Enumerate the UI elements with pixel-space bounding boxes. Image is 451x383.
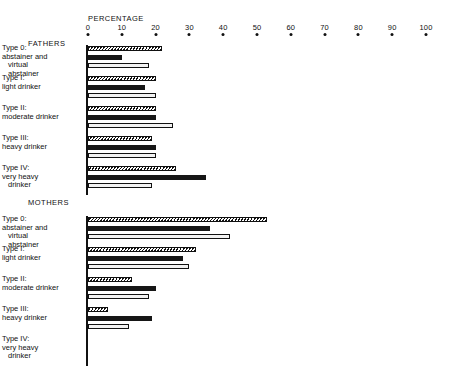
axis-tick-label: 70 [320,23,329,32]
axis-tick-dot [391,33,394,36]
category-label: Type I:light drinker [2,74,86,91]
category-label-line: heavy drinker [2,143,86,152]
bar-mothers-cat2-series-2 [88,286,156,291]
bar-fathers-cat2-series-1 [88,106,156,111]
bar-mothers-cat3-series-2 [88,316,152,321]
axis-title: PERCENTAGE [88,14,144,23]
axis-tick-dot [120,33,123,36]
axis-tick-label: 30 [185,23,194,32]
category-label-line: heavy drinker [2,314,86,323]
category-label-line: drinker [2,181,86,190]
bar-mothers-cat0-series-2 [88,226,210,231]
axis-tick-label: 40 [219,23,228,32]
axis-tick-label: 80 [354,23,363,32]
bar-mothers-cat0-series-3 [88,234,230,239]
category-label-line: moderate drinker [2,113,86,122]
bar-fathers-cat3-series-1 [88,136,152,141]
category-label: Type II:moderate drinker [2,104,86,121]
category-label: Type IV:very heavydrinker [2,164,86,190]
category-label-line: drinker [2,352,86,361]
bar-fathers-cat0-series-1 [88,46,162,51]
bar-fathers-cat3-series-3 [88,153,156,158]
bar-fathers-cat1-series-3 [88,93,156,98]
axis-tick-dot [256,33,259,36]
bar-fathers-cat0-series-2 [88,55,122,60]
category-label-line: light drinker [2,254,86,263]
bar-mothers-cat1-series-3 [88,264,189,269]
bar-fathers-cat4-series-1 [88,166,176,171]
axis-tick-label: 10 [117,23,126,32]
bar-fathers-cat4-series-2 [88,175,206,180]
axis-tick-dot [222,33,225,36]
bar-fathers-cat2-series-2 [88,115,156,120]
bar-fathers-cat0-series-3 [88,63,149,68]
axis-tick-label: 0 [86,23,90,32]
axis-tick-dot [323,33,326,36]
bar-fathers-cat1-series-2 [88,85,145,90]
axis-tick-dot [154,33,157,36]
bar-fathers-cat3-series-2 [88,145,156,150]
bar-fathers-cat4-series-3 [88,183,152,188]
axis-tick-label: 50 [253,23,262,32]
axis-tick-dot [357,33,360,36]
bar-mothers-cat3-series-1 [88,307,108,312]
category-label: Type III:heavy drinker [2,305,86,322]
bar-mothers-cat1-series-1 [88,247,196,252]
category-label: Type I:light drinker [2,245,86,262]
axis-tick-dot [188,33,191,36]
axis-tick-label: 20 [151,23,160,32]
axis-tick-dot [425,33,428,36]
category-label-line: light drinker [2,83,86,92]
bar-mothers-cat3-series-3 [88,324,129,329]
category-label-line: moderate drinker [2,284,86,293]
bar-fathers-cat1-series-1 [88,76,156,81]
axis-tick-dot [87,33,90,36]
bar-fathers-cat2-series-3 [88,123,173,128]
category-label: Type III:heavy drinker [2,134,86,151]
panel-title-mothers: MOTHERS [28,198,69,207]
axis-tick-label: 100 [419,23,432,32]
bar-mothers-cat1-series-2 [88,256,183,261]
axis-tick-label: 60 [286,23,295,32]
bar-chart: PERCENTAGE0102030405060708090100FATHERST… [0,0,451,383]
bar-mothers-cat2-series-1 [88,277,132,282]
category-label: Type IV:very heavydrinker [2,335,86,361]
bar-mothers-cat2-series-3 [88,294,149,299]
category-label: Type II:moderate drinker [2,275,86,292]
axis-tick-label: 90 [388,23,397,32]
bar-mothers-cat0-series-1 [88,217,267,222]
axis-tick-dot [289,33,292,36]
